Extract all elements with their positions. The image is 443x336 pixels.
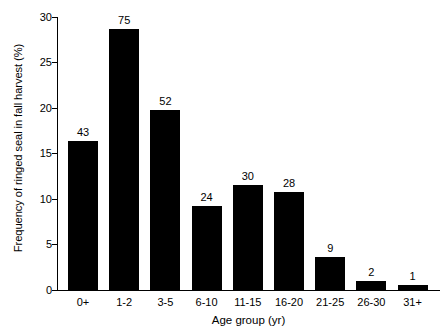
y-tick-label: 0: [30, 285, 52, 295]
bar-value-label: 9: [305, 243, 355, 254]
bar-value-label: 28: [264, 178, 314, 189]
y-tick-label: 30: [30, 12, 52, 22]
x-axis-line: [57, 290, 440, 291]
bar: [150, 110, 180, 290]
y-tick-label: 20: [30, 103, 52, 113]
y-tick-label: 25: [30, 57, 52, 67]
x-axis-title: Age group (yr): [57, 314, 440, 326]
y-axis-title: Frequency of ringed seal in fall harvest…: [12, 8, 24, 288]
bar: [274, 192, 304, 290]
x-axis-tick-labels: 0+1-23-56-1011-1516-2021-2526-3031+: [57, 296, 440, 312]
bar: [315, 257, 345, 290]
y-tick-label: 5: [30, 239, 52, 249]
bar: [398, 285, 428, 290]
bar: [68, 141, 98, 290]
bar-value-label: 43: [58, 127, 108, 138]
x-tick-label: 31+: [387, 296, 439, 308]
bar-value-label: 75: [99, 15, 149, 26]
bar: [192, 206, 222, 290]
bar: [356, 281, 386, 290]
y-tick-label: 15: [30, 148, 52, 158]
y-tick-label: 10: [30, 194, 52, 204]
bar: [233, 185, 263, 290]
bar-chart-figure: Frequency of ringed seal in fall harvest…: [0, 0, 443, 336]
bar: [109, 29, 139, 290]
y-axis-tick-labels: 30 25 20 15 10 5 0: [28, 0, 52, 336]
plot-area: 437552243028921: [57, 17, 440, 290]
bar-value-label: 52: [140, 96, 190, 107]
bar-value-label: 24: [182, 192, 232, 203]
bar-value-label: 1: [388, 271, 438, 282]
